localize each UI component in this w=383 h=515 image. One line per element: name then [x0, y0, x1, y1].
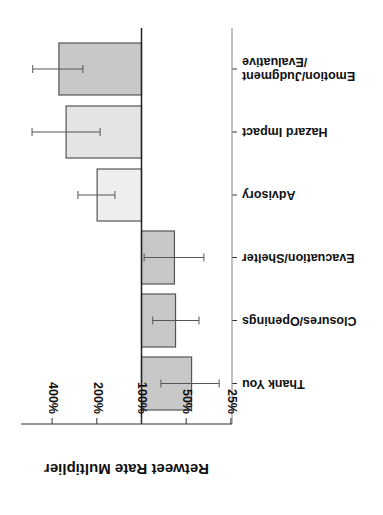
category-label: /Evaluative [242, 55, 307, 69]
value-tick-label: 50% [180, 389, 194, 414]
category-label: Hazard Impact [241, 125, 327, 139]
category-label: Thank You [242, 377, 305, 391]
category-label: Closures/Openings [242, 314, 357, 328]
value-tick-label: 200% [91, 382, 105, 414]
bars-group [32, 43, 219, 410]
value-tick-label: 25% [225, 389, 239, 414]
value-tick-label: 100% [135, 382, 149, 414]
x-axis-title: Retweet Rate Multiplier [44, 461, 209, 478]
chart-container: Thank YouClosures/OpeningsEvacuation/She… [0, 0, 383, 515]
category-label: Evacuation/Shelter [242, 251, 355, 265]
category-label: Advisory [242, 188, 296, 202]
value-tick-label: 400% [46, 382, 60, 414]
category-label: Emotion/Judgment [241, 69, 355, 83]
retweet-rate-bar-chart: Thank YouClosures/OpeningsEvacuation/She… [0, 0, 383, 515]
